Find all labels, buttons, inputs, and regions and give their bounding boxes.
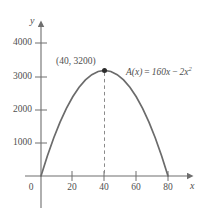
vertex-dot: [102, 68, 107, 73]
y-tick-label-1000: 1000: [4, 138, 32, 148]
y-axis-label: y: [30, 16, 34, 26]
vertex-coordinate-label: (40, 3200): [56, 57, 96, 67]
x-tick-label-40: 40: [94, 183, 114, 193]
y-tick-label-2000: 2000: [4, 105, 32, 115]
function-label: A(x)=160x−2x2: [126, 66, 192, 78]
x-axis-label: x: [190, 181, 194, 191]
function-equals: =: [144, 67, 149, 77]
x-tick-label-60: 60: [126, 183, 146, 193]
x-tick-label-20: 20: [62, 183, 82, 193]
x-tick-label-80: 80: [158, 183, 178, 193]
function-name: A(x): [126, 67, 142, 77]
function-term-1: 160x: [152, 67, 170, 77]
y-tick-label-4000: 4000: [4, 38, 32, 48]
y-tick-label-3000: 3000: [4, 72, 32, 82]
x-tick-label-0: 0: [24, 183, 38, 193]
function-term-2-exponent: 2: [189, 65, 192, 72]
function-term-2: 2x: [180, 67, 189, 77]
chart-figure: y x 4000 3000 2000 1000 0 20 40 60 80 (4…: [0, 0, 204, 219]
function-operator: −: [172, 67, 177, 77]
